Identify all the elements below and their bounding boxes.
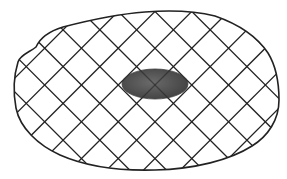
crosshatched-oval-diagram: [0, 0, 287, 179]
hatch-line: [0, 0, 287, 123]
hatch-line: [0, 157, 287, 179]
hatch-line: [0, 0, 287, 13]
hatch-line: [0, 101, 287, 179]
central-dark-inclusion: [122, 69, 188, 99]
hatch-line: [0, 0, 287, 49]
diagram-canvas: [0, 0, 287, 179]
hatch-line: [0, 0, 287, 49]
hatch-line: [0, 0, 287, 33]
hatch-line: [0, 174, 287, 179]
hatch-line: [0, 0, 287, 33]
hatch-line: [0, 47, 287, 179]
hatch-line: [0, 0, 287, 123]
hatch-line: [0, 157, 287, 179]
hatch-line: [0, 47, 287, 179]
hatch-line: [0, 174, 287, 179]
hatch-line: [0, 0, 287, 13]
hatch-line: [0, 101, 287, 179]
